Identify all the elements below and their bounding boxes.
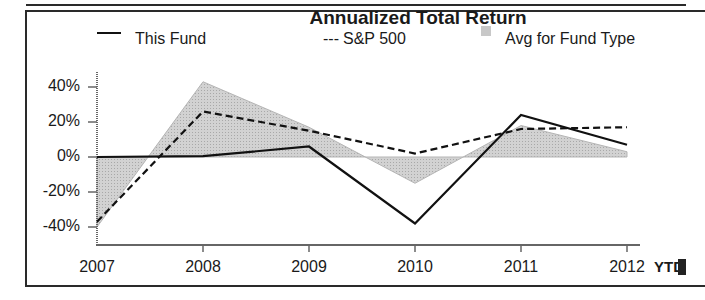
avg-fund-type-area: [97, 82, 627, 227]
ytd-overflow-marker: [678, 259, 686, 275]
x-tick-label: 2010: [385, 258, 445, 276]
axes: [88, 72, 640, 252]
x-tick-label: 2008: [173, 258, 233, 276]
x-tick-label: 2007: [67, 258, 127, 276]
x-tick-label: 2011: [491, 258, 551, 276]
area-fill: [97, 82, 627, 227]
x-tick-label: 2012: [597, 258, 657, 276]
y-tick-label: 40%: [20, 77, 80, 95]
x-tick-label: 2009: [279, 258, 339, 276]
y-tick-label: 20%: [20, 112, 80, 130]
y-tick-label: -20%: [20, 182, 80, 200]
y-tick-label: 0%: [20, 147, 80, 165]
y-tick-label: -40%: [20, 217, 80, 235]
